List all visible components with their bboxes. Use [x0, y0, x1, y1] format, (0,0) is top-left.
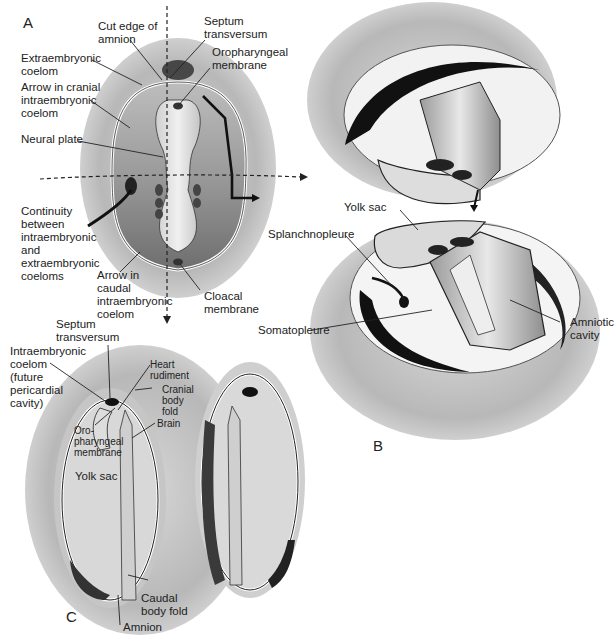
label-somatopleure: Somatopleure: [258, 324, 330, 337]
label-yolk-sac-c: Yolk sac: [75, 470, 117, 483]
panel-label-c: C: [66, 608, 77, 625]
label-amniotic-cavity: Amniotic cavity: [570, 316, 614, 342]
label-intraembryonic-coelom: Intraembryonic coelom (future pericardia…: [10, 345, 86, 410]
label-oropharyngeal-membrane-c: Oro- pharyngeal membrane: [74, 425, 123, 458]
label-amnion: Amnion: [123, 621, 162, 634]
label-continuity-coeloms: Continuity between intraembryonic and ex…: [21, 205, 100, 283]
panel-label-b: B: [373, 437, 383, 454]
label-cloacal-membrane: Cloacal membrane: [204, 290, 259, 316]
label-cut-edge-amnion: Cut edge of amnion: [98, 20, 157, 46]
label-septum-transversum-c: Septum transversum: [56, 318, 119, 344]
label-oropharyngeal-membrane-a: Oropharyngeal membrane: [212, 46, 288, 72]
label-arrow-caudal-coelom: Arrow in caudal intraembryonic coelom: [97, 269, 172, 321]
label-yolk-sac-b: Yolk sac: [344, 201, 386, 214]
label-splanchnopleure: Splanchnopleure: [268, 228, 354, 241]
panel-label-a: A: [23, 14, 33, 31]
label-cranial-body-fold: Cranial body fold: [162, 384, 194, 417]
label-extraembryonic-coelom: Extraembryonic coelom: [21, 52, 101, 78]
label-neural-plate: Neural plate: [21, 133, 83, 146]
label-arrow-cranial-coelom: Arrow in cranial intraembryonic coelom: [21, 81, 100, 120]
panel-b-lower-diagram: [310, 220, 600, 440]
panel-b-upper-diagram: [307, 2, 560, 212]
panel-c-right-diagram: [195, 362, 305, 598]
label-caudal-body-fold: Caudal body fold: [141, 592, 188, 618]
label-heart-rudiment: Heart rudiment: [150, 359, 189, 381]
label-septum-transversum-a: Septum transversum: [204, 15, 267, 41]
label-brain: Brain: [157, 418, 180, 429]
